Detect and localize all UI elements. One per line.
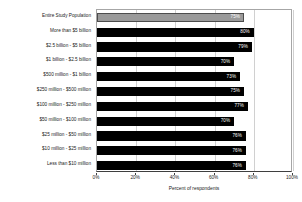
bar: 70% <box>97 57 234 66</box>
bar-row: 76% <box>97 131 291 140</box>
bar-row: 70% <box>97 57 291 66</box>
bar: 75% <box>97 13 244 22</box>
category-label: $10 million - $25 million <box>42 147 91 152</box>
x-axis-title: Percent of respondents <box>96 187 292 192</box>
bar-value-label: 80% <box>240 30 250 35</box>
bar-row: 73% <box>97 72 291 81</box>
category-label: $500 million - $1 billion <box>43 73 91 78</box>
category-label: $25 million - $50 million <box>42 133 91 138</box>
category-label: $2.5 billion - $5 billion <box>46 44 91 49</box>
plot-area: 75%80%79%70%73%75%77%70%76%76%76% <box>96 9 292 172</box>
x-axis-ticks: 0%20%40%60%80%100% <box>96 173 292 183</box>
bar-value-label: 70% <box>221 119 231 124</box>
bar-value-label: 76% <box>232 134 242 139</box>
bar-row: 80% <box>97 28 291 37</box>
bar-value-label: 75% <box>231 89 241 94</box>
bar-row: 75% <box>97 87 291 96</box>
bar-row: 70% <box>97 117 291 126</box>
category-axis-labels: Entire Study PopulationMore than $5 bill… <box>0 9 94 172</box>
x-tick-label: 60% <box>209 176 218 181</box>
bar: 70% <box>97 117 234 126</box>
bar-series: 75%80%79%70%73%75%77%70%76%76%76% <box>97 10 291 171</box>
x-tick-label: 40% <box>170 176 179 181</box>
bar-row: 76% <box>97 146 291 155</box>
bar-row: 77% <box>97 102 291 111</box>
category-label: More than $5 billion <box>50 29 91 34</box>
bar-row: 75% <box>97 13 291 22</box>
bar: 80% <box>97 28 254 37</box>
gridline <box>293 10 294 171</box>
bar-value-label: 76% <box>232 148 242 153</box>
category-label: $50 million - $100 million <box>39 118 91 123</box>
bar-row: 76% <box>97 161 291 170</box>
x-tick-label: 80% <box>248 176 257 181</box>
bar: 77% <box>97 102 248 111</box>
bar: 76% <box>97 161 246 170</box>
bar-row: 79% <box>97 42 291 51</box>
x-tick-label: 0% <box>93 176 100 181</box>
bar-value-label: 77% <box>234 104 244 109</box>
category-label: Entire Study Population <box>42 14 91 19</box>
bar-value-label: 76% <box>232 163 242 168</box>
category-label: $100 million - $250 million <box>37 103 91 108</box>
bar-value-label: 79% <box>238 45 248 50</box>
bar: 75% <box>97 87 244 96</box>
x-tick-label: 100% <box>286 176 298 181</box>
bar-chart: Entire Study PopulationMore than $5 bill… <box>0 0 302 202</box>
category-label: $1 billion - $2.5 billion <box>46 58 91 63</box>
bar: 76% <box>97 131 246 140</box>
bar: 76% <box>97 146 246 155</box>
x-tick-label: 20% <box>130 176 139 181</box>
bar: 73% <box>97 72 240 81</box>
bar: 79% <box>97 42 252 51</box>
bar-value-label: 73% <box>227 74 237 79</box>
category-label: $250 million - $500 million <box>37 88 91 93</box>
bar-value-label: 75% <box>231 15 241 20</box>
bar-value-label: 70% <box>221 60 231 65</box>
category-label: Less than $10 million <box>47 162 91 167</box>
